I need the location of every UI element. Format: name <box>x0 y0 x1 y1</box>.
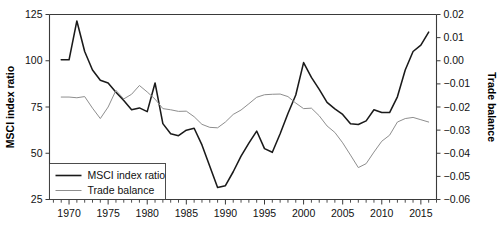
x-tick-label: 1985 <box>175 207 199 219</box>
x-tick-label: 1975 <box>96 207 120 219</box>
y-tick-label: 75 <box>31 101 43 113</box>
y2-tick-label: −0.02 <box>444 101 471 113</box>
y2-tick-label: −0.05 <box>444 170 471 182</box>
y-tick-label: 50 <box>31 147 43 159</box>
y-tick-label: 125 <box>25 8 43 20</box>
y2-axis-title: Trade balance <box>486 72 498 142</box>
series-group <box>61 21 428 188</box>
x-tick-label: 2010 <box>370 207 394 219</box>
x-tick-label: 2015 <box>409 207 433 219</box>
series-line-msci-index-ratio <box>61 21 428 188</box>
line-chart: 255075100125−0.06−0.05−0.04−0.03−0.02−0.… <box>0 0 499 228</box>
series-line-trade-balance <box>61 85 428 167</box>
x-tick-label: 1990 <box>214 207 238 219</box>
y2-tick-label: −0.01 <box>444 77 471 89</box>
y2-tick-label: 0.01 <box>444 31 465 43</box>
y2-tick-label: −0.06 <box>444 193 471 205</box>
x-tick-label: 1980 <box>136 207 160 219</box>
x-tick-label: 2005 <box>331 207 355 219</box>
x-tick-label: 2000 <box>292 207 316 219</box>
x-tick-label: 1970 <box>57 207 81 219</box>
y-tick-label: 100 <box>25 54 43 66</box>
axis-titles: MSCI index ratioTrade balance <box>4 66 498 148</box>
chart-legend: MSCI index ratioTrade balance <box>50 164 166 200</box>
y2-tick-label: 0.02 <box>444 8 465 20</box>
y2-tick-label: 0.00 <box>444 54 465 66</box>
chart-figure: 255075100125−0.06−0.05−0.04−0.03−0.02−0.… <box>0 0 499 228</box>
y-tick-label: 25 <box>31 193 43 205</box>
y2-tick-label: −0.03 <box>444 124 471 136</box>
legend-label-msci: MSCI index ratio <box>88 169 166 181</box>
y2-tick-label: −0.04 <box>444 147 471 159</box>
x-tick-label: 1995 <box>253 207 277 219</box>
y-axis-title: MSCI index ratio <box>4 66 16 148</box>
legend-label-trade: Trade balance <box>88 184 155 196</box>
